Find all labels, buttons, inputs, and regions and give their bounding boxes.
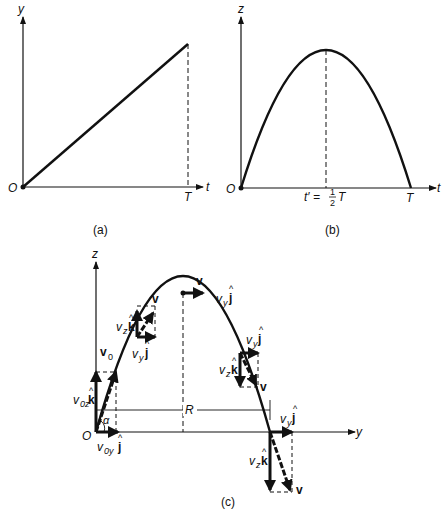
svg-text:v: v (249, 454, 256, 468)
svg-text:j: j (291, 411, 295, 425)
origin-label: O (8, 181, 17, 195)
origin-dot (239, 186, 244, 191)
y-axis-label: y (355, 425, 363, 439)
launch-vectors: α v 0 v 0z ^ k v 0y ^ j (73, 345, 123, 456)
svg-text:y: y (222, 298, 228, 308)
origin-label: O (226, 182, 235, 196)
svg-text:v: v (216, 292, 223, 306)
caption-a: (a) (93, 223, 108, 237)
vy-j-label: v y ^ j (132, 339, 150, 363)
panel-c: z y O R α v 0 v 0z ^ (73, 247, 363, 509)
v-label: v (260, 380, 267, 394)
v-label: v (152, 292, 159, 306)
svg-text:k: k (128, 320, 135, 334)
half-T-label: t′ = 1 2 T (304, 187, 347, 208)
svg-text:k: k (231, 363, 238, 377)
svg-text:k: k (261, 454, 268, 468)
svg-text:v: v (219, 363, 226, 377)
svg-text:j: j (257, 332, 261, 346)
svg-text:v: v (280, 412, 287, 426)
svg-text:T: T (338, 190, 347, 204)
panel-b: z t O t′ = 1 2 T T (b) (226, 2, 441, 237)
svg-text:j: j (117, 440, 121, 454)
v0-label: v 0 (100, 345, 113, 362)
svg-text:v: v (246, 333, 253, 347)
svg-text:v: v (97, 440, 104, 454)
v0z-k-label: v 0z ^ k (73, 386, 95, 409)
T-label: T (406, 191, 415, 205)
alpha-label: α (103, 414, 110, 426)
v-label: v (196, 274, 203, 288)
caption-c: (c) (221, 495, 235, 509)
z-axis-label: z (91, 247, 98, 261)
svg-text:v: v (100, 345, 107, 359)
v-vector (270, 432, 290, 490)
svg-text:j: j (144, 346, 148, 360)
origin-dot (21, 185, 26, 190)
vy-j-label: v y ^ j (246, 325, 264, 349)
descending-vectors: v v y ^ j v z ^ k (219, 325, 267, 394)
origin-label: O (82, 429, 91, 443)
vy-j-label: v y ^ j (216, 284, 234, 308)
svg-text:j: j (228, 291, 232, 305)
svg-text:0y: 0y (104, 446, 114, 456)
svg-text:v: v (116, 320, 123, 334)
y-vs-t-line (23, 44, 188, 187)
v0y-j-label: v 0y ^ j (97, 433, 123, 456)
svg-text:k: k (88, 393, 95, 407)
svg-text:y: y (138, 353, 144, 363)
svg-text:v: v (73, 393, 80, 407)
svg-text:0: 0 (108, 352, 113, 362)
panel-a: y t O T (a) (8, 2, 210, 237)
vz-k-label: v z ^ k (116, 313, 135, 336)
range-label: R (185, 403, 194, 417)
landing-vectors: v v y ^ j v z ^ k (249, 404, 303, 497)
t-axis-label: t (437, 181, 441, 195)
vz-k-label: v z ^ k (249, 447, 268, 470)
vz-k-label: v z ^ k (219, 356, 238, 379)
v-label: v (296, 483, 303, 497)
svg-text:v: v (132, 347, 139, 361)
z-axis-label: z (237, 2, 244, 16)
vy-j-label: v y ^ j (280, 404, 298, 428)
caption-b: (b) (325, 223, 340, 237)
y-axis-label: y (17, 2, 25, 16)
T-label: T (184, 190, 193, 204)
svg-text:1: 1 (330, 187, 335, 197)
projectile-motion-figure: y t O T (a) z t O t′ = 1 2 T T (b) z y O (0, 0, 442, 511)
svg-text:2: 2 (330, 198, 335, 208)
svg-text:t′ =: t′ = (304, 190, 320, 204)
t-axis-label: t (206, 180, 210, 194)
